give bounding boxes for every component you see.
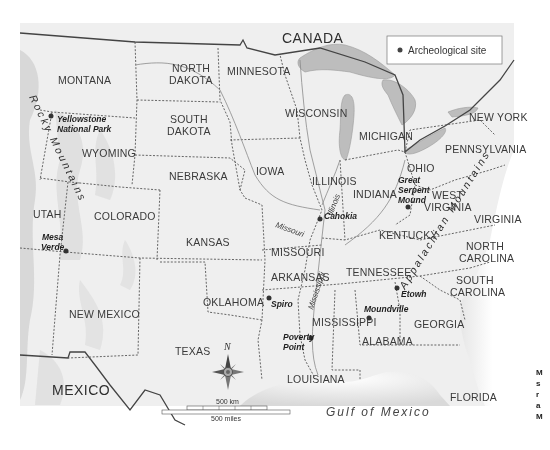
state-label-south-dakota-2: DAKOTA [167,125,211,137]
site-marker-icon [406,205,411,210]
svg-text:Etowh: Etowh [401,289,427,299]
site-marker-icon [367,316,372,321]
state-label-indiana: INDIANA [353,188,397,200]
svg-text:Cahokia: Cahokia [324,211,357,221]
site-yellowstone[interactable]: Yellowstone National Park [49,114,113,135]
state-label-wisconsin: WISCONSIN [285,107,347,119]
state-label-nebraska: NEBRASKA [169,170,228,182]
state-label-north-carolina: NORTH [466,240,504,252]
scale-label-miles: 500 miles [211,415,241,422]
compass-north-label: N [223,341,232,352]
state-label-utah: UTAH [33,208,62,220]
state-label-north-dakota: NORTH [172,62,210,74]
state-label-virginia: VIRGINIA [474,213,522,225]
country-label-canada: CANADA [282,30,344,46]
legend: Archeological site [387,36,502,64]
svg-text:Point: Point [283,342,305,352]
state-label-north-dakota-2: DAKOTA [169,74,213,86]
site-marker-icon [49,114,54,119]
state-label-south-carolina-2: CAROLINA [450,286,505,298]
site-marker-icon [318,217,323,222]
state-label-oklahoma: OKLAHOMA [203,296,264,308]
state-label-new-mexico: NEW MEXICO [69,308,140,320]
svg-text:Verde: Verde [41,242,65,252]
state-label-ohio: OHIO [407,162,435,174]
state-label-kansas: KANSAS [186,236,230,248]
state-label-colorado: COLORADO [94,210,156,222]
us-archaeological-sites-map: CANADA MEXICO MONTANA NORTH DAKOTA MINNE… [0,0,550,450]
legend-label: Archeological site [408,45,487,56]
legend-marker-icon [398,48,403,53]
state-label-texas: TEXAS [175,345,210,357]
state-label-montana: MONTANA [58,74,111,86]
svg-text:Yellowstone: Yellowstone [57,114,107,124]
state-label-north-carolina-2: CAROLINA [459,252,514,264]
state-label-georgia: GEORGIA [414,318,464,330]
state-label-iowa: IOWA [256,165,284,177]
state-label-minnesota: MINNESOTA [227,65,290,77]
state-label-wyoming: WYOMING [82,147,136,159]
state-label-missouri: MISSOURI [271,246,325,258]
site-cahokia[interactable]: Cahokia [318,211,358,222]
svg-text:Mound: Mound [398,195,427,205]
svg-text:Moundville: Moundville [364,304,409,314]
svg-text:Spiro: Spiro [271,299,293,309]
state-label-florida: FLORIDA [450,391,497,403]
scale-label-km: 500 km [216,398,239,405]
state-label-alabama: ALABAMA [362,335,413,347]
svg-text:Serpent: Serpent [398,185,431,195]
svg-text:National Park: National Park [57,124,113,134]
state-label-new-york: NEW YORK [469,111,528,123]
site-marker-icon [395,286,400,291]
state-label-michigan: MICHIGAN [359,130,413,142]
state-label-south-dakota: SOUTH [170,113,208,125]
water-label-gulf-of-mexico: Gulf of Mexico [326,405,431,419]
figure-caption-fragment: M s r a M [536,367,550,422]
svg-text:Mesa: Mesa [42,232,64,242]
state-label-south-carolina: SOUTH [456,274,494,286]
svg-text:Poverty: Poverty [283,332,315,342]
svg-text:Great: Great [398,175,421,185]
state-label-illinois: ILLINOIS [312,175,357,187]
state-label-louisiana: LOUISIANA [287,373,345,385]
country-label-mexico: MEXICO [52,382,110,398]
